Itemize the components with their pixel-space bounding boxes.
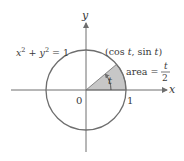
origin-label: 0 <box>76 95 82 106</box>
area-label: area = <box>126 66 158 77</box>
circle-equation: x2 + y2 = 1 <box>16 46 69 58</box>
point-label: (cos t, sin t) <box>105 46 162 57</box>
area-numerator: t <box>164 61 168 71</box>
x-axis-label: x <box>169 83 176 96</box>
y-axis-label: y <box>81 9 89 22</box>
area-denominator: 2 <box>162 73 168 83</box>
unit-circle-diagram: x y 0 1 t x2 + y2 = 1 (cos t, sin t) are… <box>0 0 184 161</box>
one-label: 1 <box>127 95 133 106</box>
